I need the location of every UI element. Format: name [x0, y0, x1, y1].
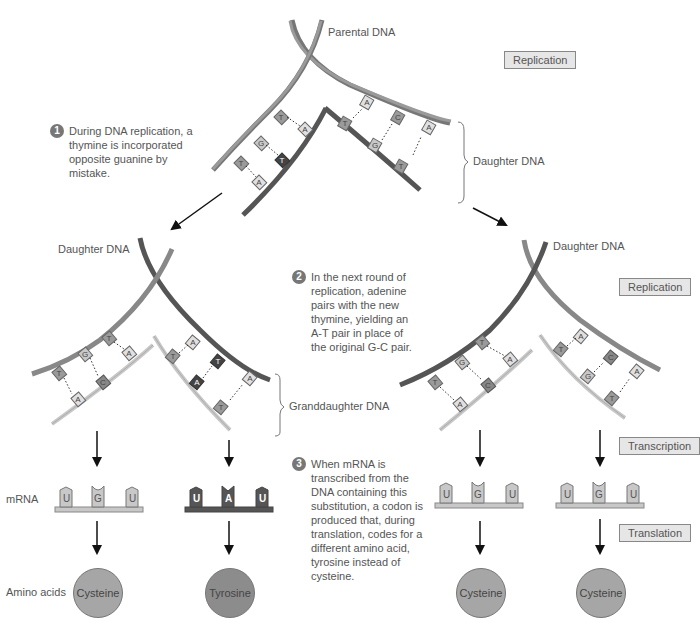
- svg-text:A: A: [457, 400, 463, 409]
- svg-text:A: A: [426, 123, 432, 132]
- svg-text:A: A: [247, 374, 253, 383]
- codon-2-base-1: U: [193, 493, 200, 504]
- codon-1-base-1: U: [63, 493, 70, 504]
- svg-text:A: A: [190, 338, 196, 347]
- svg-text:C: C: [608, 353, 614, 362]
- step-3-text: When mRNA is transcribed from the DNA co…: [311, 458, 423, 582]
- svg-text:C: C: [395, 113, 401, 122]
- mrna-label: mRNA: [6, 493, 38, 505]
- svg-text:T: T: [280, 156, 285, 165]
- svg-text:C: C: [485, 381, 491, 390]
- replication-box-right: Replication: [619, 278, 691, 296]
- svg-text:T: T: [399, 162, 404, 171]
- parental-dna-label: Parental DNA: [328, 26, 395, 38]
- svg-text:A: A: [634, 367, 640, 376]
- svg-text:T: T: [219, 403, 224, 412]
- step-1: 1 During DNA replication, a thymine is i…: [69, 124, 199, 180]
- svg-text:G: G: [82, 350, 88, 359]
- step-2: 2 In the next round of replication, aden…: [311, 270, 416, 354]
- svg-text:G: G: [258, 139, 264, 148]
- step-2-text: In the next round of replication, adenin…: [311, 271, 412, 353]
- codon-4-base-2: G: [595, 489, 603, 500]
- granddaughter-dna-label: Granddaughter DNA: [289, 400, 389, 412]
- arrow-to-right-daughter: [473, 208, 506, 225]
- svg-text:T: T: [279, 113, 284, 122]
- svg-text:A: A: [194, 378, 200, 387]
- svg-text:G: G: [585, 372, 591, 381]
- svg-text:T: T: [216, 357, 221, 366]
- codon-2-base-2: A: [225, 493, 232, 504]
- step-3-number-badge: 3: [292, 457, 306, 471]
- svg-text:A: A: [302, 125, 308, 134]
- svg-text:G: G: [372, 141, 378, 150]
- codon-4-base-3: U: [630, 489, 637, 500]
- svg-text:T: T: [107, 334, 112, 343]
- svg-text:T: T: [57, 369, 62, 378]
- svg-text:A: A: [578, 332, 584, 341]
- replication-box-top: Replication: [504, 51, 576, 69]
- codon-1-base-2: G: [94, 493, 102, 504]
- amino-acid-cysteine-1: Cysteine: [73, 568, 123, 618]
- amino-acid-cysteine-3: Cysteine: [576, 568, 626, 618]
- codon-3-base-1: U: [443, 489, 450, 500]
- svg-text:T: T: [239, 159, 244, 168]
- right-daughter-fork: T G T A C A A T C G A T: [400, 240, 660, 430]
- codon-4-base-1: U: [564, 489, 571, 500]
- arrow-to-left-daughter: [172, 193, 222, 229]
- codon-3-base-3: U: [509, 489, 516, 500]
- svg-text:T: T: [610, 394, 615, 403]
- codon-1-base-3: U: [129, 493, 136, 504]
- amino-acids-label: Amino acids: [6, 586, 66, 598]
- svg-text:A: A: [507, 355, 513, 364]
- amino-acid-cysteine-2: Cysteine: [456, 568, 506, 618]
- step-1-number-badge: 1: [50, 124, 64, 138]
- svg-text:T: T: [343, 119, 348, 128]
- svg-text:G: G: [459, 358, 465, 367]
- codon-2-base-3: U: [259, 493, 266, 504]
- step-1-text: During DNA replication, a thymine is inc…: [69, 125, 193, 179]
- svg-text:A: A: [256, 178, 262, 187]
- step-2-number-badge: 2: [292, 270, 306, 284]
- svg-text:A: A: [126, 349, 132, 358]
- daughter-dna-left-label: Daughter DNA: [58, 243, 130, 255]
- translation-box: Translation: [619, 524, 691, 542]
- svg-text:C: C: [100, 378, 106, 387]
- amino-acid-tyrosine: Tyrosine: [205, 568, 255, 618]
- transcription-box: Transcription: [619, 437, 700, 455]
- svg-text:A: A: [364, 98, 370, 107]
- svg-text:A: A: [75, 395, 81, 404]
- codon-3-base-2: G: [474, 489, 482, 500]
- svg-text:T: T: [171, 352, 176, 361]
- daughter-dna-top-label: Daughter DNA: [473, 155, 545, 167]
- step-3: 3 When mRNA is transcribed from the DNA …: [311, 457, 426, 583]
- svg-text:T: T: [480, 338, 485, 347]
- parental-fork: T G T A T A A C A T G T: [213, 20, 468, 215]
- left-daughter-fork: T G T A C A A T T A A T: [32, 238, 284, 436]
- daughter-dna-right-label: Daughter DNA: [553, 240, 625, 252]
- svg-text:T: T: [559, 345, 564, 354]
- svg-text:T: T: [433, 378, 438, 387]
